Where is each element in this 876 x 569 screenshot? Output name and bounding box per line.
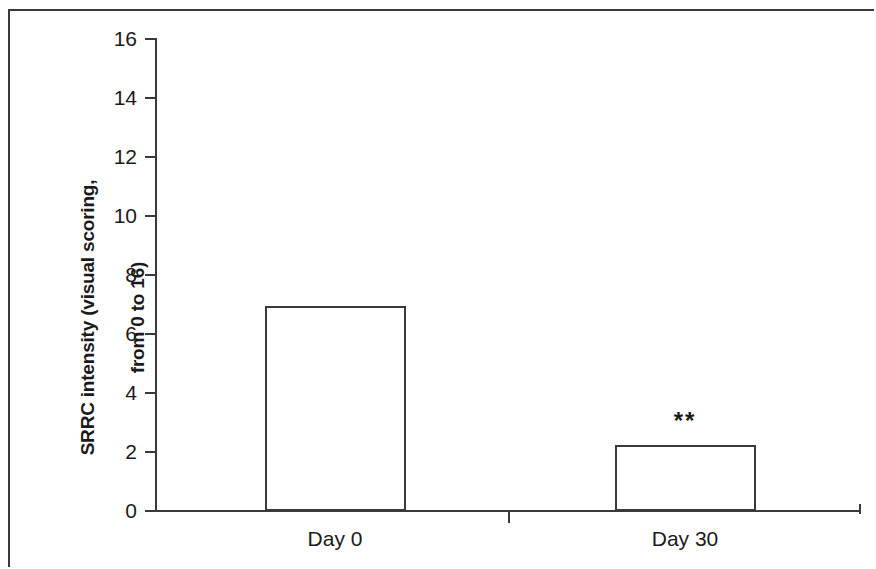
y-axis-tick-label-text: 4 bbox=[97, 382, 137, 403]
y-axis-tick-label: 12 bbox=[95, 146, 137, 167]
x-axis-label-day-0: Day 0 bbox=[255, 527, 415, 551]
y-axis-tick-label-text: 6 bbox=[97, 323, 137, 344]
y-axis-tick bbox=[145, 38, 155, 40]
y-axis-tick-label: 8 bbox=[95, 264, 137, 285]
x-axis-end-tick bbox=[859, 504, 861, 514]
y-axis-tick-label: 4 bbox=[95, 382, 137, 403]
y-axis-line bbox=[155, 38, 157, 512]
y-axis-tick-label-text: 12 bbox=[97, 146, 137, 167]
y-axis-tick-label: 2 bbox=[95, 441, 137, 462]
y-axis-tick bbox=[145, 215, 155, 217]
figure-bar-chart: SRRC intensity (visual scoring, from 0 t… bbox=[0, 0, 876, 569]
y-axis-tick bbox=[145, 333, 155, 335]
y-axis-tick bbox=[145, 392, 155, 394]
y-axis-tick-label-text: 16 bbox=[97, 28, 137, 49]
bar-day-30 bbox=[615, 445, 756, 511]
bar-day-0 bbox=[265, 306, 406, 511]
y-axis-tick-label-text: 10 bbox=[97, 205, 137, 226]
y-axis-tick-label: 10 bbox=[95, 205, 137, 226]
y-axis-tick-label: 16 bbox=[95, 28, 137, 49]
y-axis-tick bbox=[145, 97, 155, 99]
x-axis-category-separator-tick bbox=[508, 511, 510, 523]
y-axis-tick-label-text: 8 bbox=[97, 264, 137, 285]
x-axis-label-day-30: Day 30 bbox=[605, 527, 765, 551]
y-axis-tick-label: 0 bbox=[95, 500, 137, 521]
y-axis-tick-label: 6 bbox=[95, 323, 137, 344]
y-axis-tick bbox=[145, 156, 155, 158]
y-axis-tick bbox=[145, 510, 155, 512]
y-axis-tick bbox=[145, 451, 155, 453]
significance-annotation: ** bbox=[635, 409, 735, 433]
y-axis-tick-label-text: 14 bbox=[97, 87, 137, 108]
y-axis-tick-label: 14 bbox=[95, 87, 137, 108]
y-axis-tick-label-text: 2 bbox=[97, 441, 137, 462]
y-axis-tick-label-text: 0 bbox=[97, 500, 137, 521]
y-axis-tick bbox=[145, 274, 155, 276]
